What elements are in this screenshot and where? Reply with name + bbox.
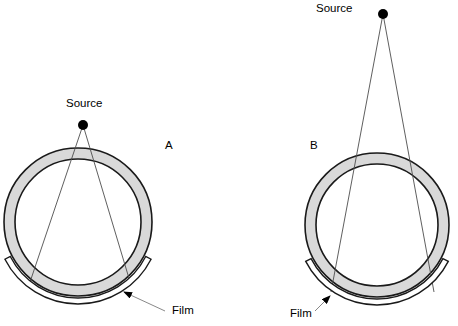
panel-a: Source A Film [4,97,194,316]
panel-b: Source B Film [290,2,449,319]
diagram-canvas: Source A Film Source B [0,0,458,326]
pipe-wall-b [305,153,449,297]
panel-label-b: B [310,139,318,151]
film-leader-line-b [315,296,330,311]
source-label-a: Source [66,97,102,109]
source-point-b [378,9,388,19]
source-label-b: Source [316,2,352,14]
film-label-a: Film [172,304,194,316]
radiography-diagram: Source A Film Source B [0,0,458,326]
panel-label-a: A [165,139,173,151]
film-leader-line-a [124,292,165,311]
film-label-b: Film [290,307,312,319]
source-point-a [78,120,88,130]
pipe-wall-a [4,148,152,296]
